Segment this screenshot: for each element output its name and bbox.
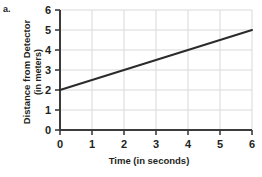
x-axis-title: Time (in seconds) (44, 155, 254, 167)
y-axis-title-line-2: (in meters) (32, 20, 44, 125)
y-tick-label: 4 (45, 44, 52, 56)
y-axis-title-rotated: Distance from Detector (in meters) (21, 20, 44, 125)
plot-area: 0 1 2 3 4 5 6 0 1 2 3 4 5 6 (44, 2, 262, 152)
x-tick-label: 3 (153, 138, 159, 150)
x-tick-label: 2 (121, 138, 127, 150)
x-tick-label: 4 (185, 138, 192, 150)
y-tick-label: 6 (45, 4, 51, 16)
x-tick-label: 5 (217, 138, 223, 150)
graph-figure: a. Distance from Detector (in meters) (0, 0, 262, 177)
y-tick-label: 5 (45, 24, 51, 36)
y-axis-title: Distance from Detector (in meters) (17, 8, 47, 136)
y-tick-label: 1 (45, 104, 51, 116)
grid-lines (60, 10, 252, 130)
x-tick-label: 6 (249, 138, 255, 150)
y-tick-label: 2 (45, 84, 51, 96)
x-tick-label: 1 (89, 138, 95, 150)
x-tick-label: 0 (57, 138, 63, 150)
y-tick-label: 0 (45, 124, 51, 136)
y-axis-title-line-1: Distance from Detector (21, 20, 33, 125)
problem-letter-label: a. (3, 4, 11, 15)
y-tick-label: 3 (45, 64, 51, 76)
y-tick-labels: 0 1 2 3 4 5 6 (45, 4, 52, 136)
x-tick-labels: 0 1 2 3 4 5 6 (57, 138, 255, 150)
